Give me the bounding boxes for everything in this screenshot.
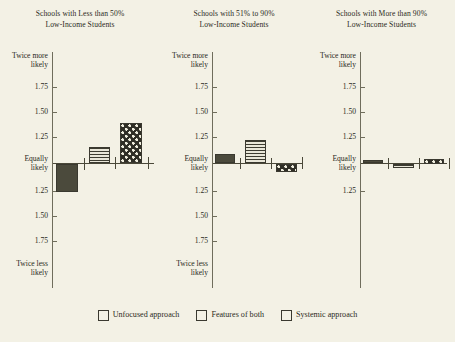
y-tick-label: 1.50 [0, 211, 48, 220]
plot-area [361, 52, 447, 288]
y-tick-label: Twice more likely [160, 51, 208, 70]
error-whisker [302, 157, 303, 169]
y-tick-label: 1.75 [308, 82, 356, 91]
figure-canvas: Schools with Less than 50% Low-Income St… [0, 0, 455, 342]
y-tick-label: 1.75 [160, 82, 208, 91]
y-axis-tick-labels: Twice more likely 1.75 1.50 1.25 Equally… [0, 52, 48, 288]
error-whisker [449, 158, 450, 169]
y-tick-label: 1.75 [0, 82, 48, 91]
panel-title: Schools with More than 90% Low-Income St… [308, 9, 455, 30]
error-whisker [419, 158, 420, 169]
y-tick-label: 1.75 [160, 236, 208, 245]
legend-label: Systemic approach [296, 310, 357, 320]
legend-item-unfocused-approach: Unfocused approach [98, 310, 180, 321]
y-tick-label: 1.25 [0, 132, 48, 141]
error-whisker [388, 158, 389, 169]
axis-area: Twice more likely 1.75 1.50 1.25 Equally… [0, 52, 160, 288]
y-tick-label: Equally likely [0, 154, 48, 173]
y-tick-label: 1.25 [0, 186, 48, 195]
plot-area [53, 52, 154, 288]
legend-label: Features of both [211, 310, 264, 320]
y-tick-label: Twice less likely [0, 259, 48, 278]
y-tick-label: Twice more likely [308, 51, 356, 70]
panel-more-than-90: Schools with More than 90% Low-Income St… [308, 0, 455, 300]
bar-features-of-both [245, 140, 266, 163]
y-tick-label: 1.25 [308, 186, 356, 195]
plot-area [213, 52, 302, 288]
y-tick-label: 1.50 [160, 211, 208, 220]
error-whisker [148, 157, 149, 169]
y-tick-label: Equally likely [160, 154, 208, 173]
panel-51-to-90: Schools with 51% to 90% Low-Income Stude… [160, 0, 308, 300]
y-tick-label: 1.25 [160, 132, 208, 141]
legend-swatch-stripe-icon [196, 310, 207, 321]
error-whisker [115, 157, 116, 169]
y-tick-label: Twice less likely [160, 259, 208, 278]
bar-unfocused-approach [215, 154, 235, 163]
y-tick-label: 1.25 [160, 186, 208, 195]
error-whisker [84, 158, 85, 170]
y-tick-label: 1.50 [308, 107, 356, 116]
y-tick-label: 1.25 [308, 132, 356, 141]
bar-unfocused-approach [363, 160, 383, 163]
y-axis-tick-labels: Twice more likely 1.75 1.50 1.25 Equally… [308, 52, 356, 288]
panel-less-than-50: Schools with Less than 50% Low-Income St… [0, 0, 160, 300]
error-whisker [240, 158, 241, 169]
legend-item-systemic-approach: Systemic approach [281, 310, 357, 321]
bar-features-of-both [393, 164, 414, 168]
bar-systemic-approach [424, 159, 444, 164]
legend-swatch-check-icon [281, 310, 292, 321]
y-tick-label: 1.75 [0, 236, 48, 245]
y-tick-label: 1.50 [160, 107, 208, 116]
legend-swatch-solid-icon [98, 310, 109, 321]
bar-features-of-both [89, 147, 110, 163]
axis-area: Twice more likely 1.75 1.50 1.25 Equally… [160, 52, 308, 288]
legend-item-features-of-both: Features of both [196, 310, 264, 321]
chart-legend: Unfocused approach Features of both Syst… [0, 305, 455, 325]
axis-area: Twice more likely 1.75 1.50 1.25 Equally… [308, 52, 455, 288]
y-tick-label: Twice more likely [0, 51, 48, 70]
y-tick-label: 1.50 [0, 107, 48, 116]
bar-systemic-approach [276, 164, 297, 172]
panel-title: Schools with Less than 50% Low-Income St… [0, 9, 160, 30]
y-axis-tick-labels: Twice more likely 1.75 1.50 1.25 Equally… [160, 52, 208, 288]
bar-systemic-approach [120, 123, 142, 163]
panel-row: Schools with Less than 50% Low-Income St… [0, 0, 455, 300]
bar-unfocused-approach [56, 164, 78, 192]
error-whisker [271, 158, 272, 169]
panel-title: Schools with 51% to 90% Low-Income Stude… [160, 9, 308, 30]
y-tick-label: Equally likely [308, 154, 356, 173]
legend-label: Unfocused approach [113, 310, 180, 320]
